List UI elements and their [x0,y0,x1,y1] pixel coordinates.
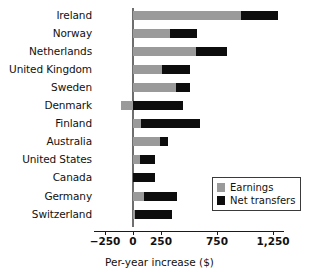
x-tick-label: 250 [150,236,172,247]
bar-segment-net-transfers [176,83,190,92]
x-tick-label: 0 [129,236,136,247]
bar-row [0,65,319,74]
legend-label-net-transfers: Net transfers [230,196,295,206]
bar-segment-earnings [133,119,141,128]
earnings-swatch-icon [217,183,225,192]
bar-segment-earnings [133,65,162,74]
bar-row [0,137,319,146]
bar-segment-net-transfers [135,210,172,219]
bar-segment-earnings [133,137,160,146]
net-transfers-swatch-icon [217,196,225,205]
legend-item-earnings: Earnings [217,181,295,194]
bar-segment-net-transfers [241,11,278,20]
bar-row [0,119,319,128]
bar-segment-net-transfers [196,47,227,56]
bar-segment-earnings [133,192,144,201]
bar-segment-net-transfers [133,101,183,110]
bar-segment-earnings [121,101,133,110]
x-tick-label: 750 [206,236,228,247]
bar-chart: IrelandNorwayNetherlandsUnited KingdomSw… [0,0,319,279]
bar-segment-earnings [133,29,170,38]
bar-segment-net-transfers [160,137,168,146]
bar-segment-net-transfers [162,65,190,74]
x-axis-line [94,231,284,232]
bar-row [0,47,319,56]
bar-row [0,83,319,92]
bar-segment-net-transfers [170,29,197,38]
bar-segment-earnings [133,155,140,164]
x-tick-label: −250 [90,236,121,247]
x-axis-title: Per-year increase ($) [0,256,319,268]
legend-item-net-transfers: Net transfers [217,194,295,207]
legend-label-earnings: Earnings [230,183,273,193]
chart-legend: Earnings Net transfers [212,177,301,211]
bar-segment-net-transfers [140,155,155,164]
bar-segment-net-transfers [144,192,177,201]
bar-segment-earnings [133,83,176,92]
bar-row [0,101,319,110]
bar-segment-earnings [133,11,241,20]
x-tick-label: 1,250 [256,236,289,247]
bar-segment-net-transfers [133,173,155,182]
bar-segment-earnings [133,47,196,56]
bar-segment-net-transfers [141,119,200,128]
bar-row [0,11,319,20]
bar-row [0,29,319,38]
bar-row [0,155,319,164]
